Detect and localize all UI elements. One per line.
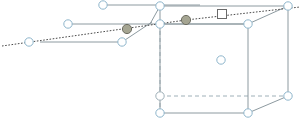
hidden-edge-group (160, 24, 288, 113)
node-cube-bottom-front-right-icon[interactable] (244, 109, 252, 117)
node-flap-left-mid-node-icon[interactable] (64, 20, 72, 28)
node-flap-left-top-node-icon[interactable] (99, 1, 107, 9)
node-cube-bottom-front-left-icon[interactable] (156, 109, 164, 117)
node-cube-top-back-left-icon[interactable] (156, 2, 164, 10)
cube-bottom-right-diag (248, 96, 288, 113)
node-flap-right-face-center-icon[interactable] (181, 15, 190, 24)
node-group (25, 1, 292, 117)
node-cube-top-back-right-icon[interactable] (284, 2, 292, 10)
node-cube-bottom-back-left-icon[interactable] (156, 92, 164, 100)
node-flap-left-face-center-icon[interactable] (122, 24, 131, 33)
node-cube-bottom-back-right-icon[interactable] (284, 92, 292, 100)
dotted-ray-right (186, 7, 300, 20)
square-marker-icon[interactable] (218, 10, 227, 19)
node-flap-left-far-node-icon[interactable] (25, 38, 33, 46)
marker-group (218, 10, 227, 19)
dotted-ray-group (2, 7, 300, 46)
lattice-cube-diagram (0, 0, 302, 120)
node-cube-top-front-right-icon[interactable] (244, 20, 252, 28)
node-cube-top-front-left-icon[interactable] (156, 20, 164, 28)
diagram-canvas (0, 0, 302, 120)
node-flap-left-low-node-icon[interactable] (118, 38, 126, 46)
node-cube-body-center-icon[interactable] (217, 56, 225, 64)
